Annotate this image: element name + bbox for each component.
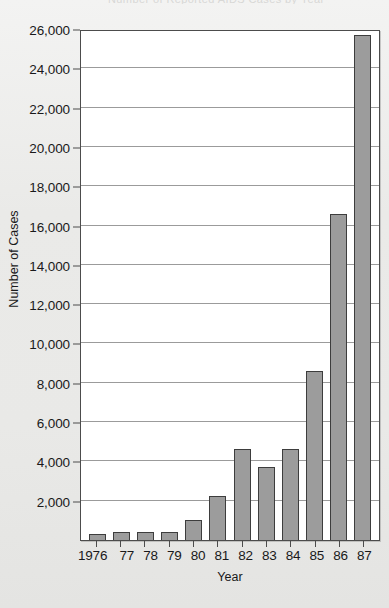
bar: [161, 532, 178, 540]
bar: [282, 449, 299, 540]
x-tick-slot: [108, 541, 132, 547]
x-axis-tick-label: 78: [139, 548, 163, 568]
bar-slot: [133, 31, 157, 540]
x-axis-tick-label: 80: [186, 548, 210, 568]
y-axis-tick-label: 16,000: [29, 219, 70, 234]
bar: [330, 214, 347, 540]
x-tick-slot: [303, 541, 327, 547]
x-axis-tick-mark: [242, 541, 243, 547]
x-axis-tick-label: 83: [257, 548, 281, 568]
x-axis-title: Year: [80, 570, 380, 584]
bar-slot: [278, 31, 302, 540]
bar-slot: [182, 31, 206, 540]
x-tick-slot: [181, 541, 205, 547]
y-axis-tick-mark: [73, 305, 80, 306]
y-axis-title: Number of Cases: [7, 199, 21, 319]
y-axis-tick-label: 14,000: [29, 258, 70, 273]
y-axis-tick-mark: [73, 344, 80, 345]
y-axis-tick-mark: [73, 462, 80, 463]
x-axis-tick-mark: [266, 541, 267, 547]
y-axis-tick-label: 8,000: [37, 376, 70, 391]
y-axis-tick-mark: [73, 501, 80, 502]
x-tick-slot: [133, 541, 157, 547]
bar: [306, 371, 323, 540]
y-axis-tick-mark: [73, 30, 80, 31]
x-axis-tick-label: 85: [305, 548, 329, 568]
x-axis-tick-label: 81: [210, 548, 234, 568]
bar-slot: [85, 31, 109, 540]
bar: [185, 520, 202, 540]
bar-slot: [230, 31, 254, 540]
y-axis-tick-label: 18,000: [29, 180, 70, 195]
y-axis-tick-label: 6,000: [37, 416, 70, 431]
bar: [354, 35, 371, 540]
y-axis-tick-mark: [73, 265, 80, 266]
bar-slot: [158, 31, 182, 540]
y-axis-tick-mark: [73, 226, 80, 227]
bar: [137, 532, 154, 540]
x-axis-tick-mark: [339, 541, 340, 547]
bar-slot: [303, 31, 327, 540]
bar: [258, 467, 275, 540]
y-axis-tick-mark: [73, 147, 80, 148]
x-axis-tick-label: 77: [115, 548, 139, 568]
x-axis-tick-mark: [96, 541, 97, 547]
x-axis-tick-mark: [144, 541, 145, 547]
cropped-title-remnant: Number of Reported AIDS Cases by Year: [108, 0, 378, 4]
bar-series: [81, 31, 379, 540]
x-tick-slot: [157, 541, 181, 547]
y-axis-tick-mark: [73, 383, 80, 384]
y-axis: Number of Cases 2,0004,0006,0008,00010,0…: [0, 0, 80, 608]
y-axis-tick-label: 22,000: [29, 101, 70, 116]
x-tick-slot: [279, 541, 303, 547]
x-axis-tick-mark: [120, 541, 121, 547]
x-axis-tick-mark: [315, 541, 316, 547]
x-tick-slot: [352, 541, 376, 547]
x-tick-slot: [84, 541, 108, 547]
bar: [89, 534, 106, 540]
y-axis-tick-label: 26,000: [29, 23, 70, 38]
x-axis-tick-label: 84: [281, 548, 305, 568]
y-axis-tick-mark: [73, 423, 80, 424]
bar: [113, 532, 130, 540]
x-axis-tick-mark: [363, 541, 364, 547]
bar: [234, 449, 251, 540]
bar-slot: [254, 31, 278, 540]
x-axis-ticks: [80, 541, 380, 547]
x-axis-tick-label: 82: [234, 548, 258, 568]
y-axis-tick-label: 24,000: [29, 62, 70, 77]
x-axis-tick-mark: [217, 541, 218, 547]
y-axis-tick-mark: [73, 187, 80, 188]
x-axis-tick-mark: [193, 541, 194, 547]
y-axis-tick-label: 10,000: [29, 337, 70, 352]
x-axis-tick-mark: [290, 541, 291, 547]
x-axis-tick-mark: [169, 541, 170, 547]
y-axis-tick-label: 12,000: [29, 298, 70, 313]
x-tick-slot: [254, 541, 278, 547]
y-axis-tick-label: 4,000: [37, 455, 70, 470]
y-axis-tick-label: 2,000: [37, 494, 70, 509]
x-axis-tick-label: 87: [352, 548, 376, 568]
bar-slot: [351, 31, 375, 540]
y-axis-tick-label: 20,000: [29, 140, 70, 155]
x-tick-slot: [327, 541, 351, 547]
x-tick-slot: [206, 541, 230, 547]
x-axis-tick-label: 86: [329, 548, 353, 568]
y-axis-tick-mark: [73, 108, 80, 109]
x-tick-slot: [230, 541, 254, 547]
x-axis-tick-label: 1976: [78, 548, 115, 568]
bar-slot: [206, 31, 230, 540]
x-axis-tick-label: 79: [162, 548, 186, 568]
chart-page-background: Number of Reported AIDS Cases by Year Nu…: [0, 0, 389, 608]
plot-area: [80, 30, 380, 541]
y-axis-tick-mark: [73, 69, 80, 70]
bar-slot: [327, 31, 351, 540]
bar-slot: [109, 31, 133, 540]
bar: [209, 496, 226, 540]
x-axis-labels: 19767778798081828384858687: [80, 548, 380, 568]
